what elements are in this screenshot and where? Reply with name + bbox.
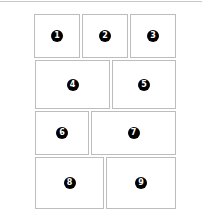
- panel-8: 8: [35, 157, 104, 209]
- panel-number-badge: 2: [99, 30, 111, 42]
- panel-3: 3: [130, 14, 176, 58]
- top-divider: [0, 1, 202, 2]
- panel-5: 5: [112, 60, 176, 109]
- panel-6: 6: [35, 111, 89, 155]
- panel-number-badge: 9: [135, 177, 147, 189]
- panel-7: 7: [91, 111, 176, 155]
- panel-number-badge: 5: [138, 79, 150, 91]
- panel-4: 4: [35, 60, 110, 109]
- panel-number-badge: 6: [56, 127, 68, 139]
- panel-number-badge: 7: [128, 127, 140, 139]
- panel-number-badge: 4: [67, 79, 79, 91]
- panel-1: 1: [34, 14, 80, 58]
- panel-9: 9: [106, 157, 176, 209]
- panel-2: 2: [82, 14, 128, 58]
- panel-number-badge: 8: [64, 177, 76, 189]
- panel-number-badge: 3: [147, 30, 159, 42]
- panel-number-badge: 1: [51, 30, 63, 42]
